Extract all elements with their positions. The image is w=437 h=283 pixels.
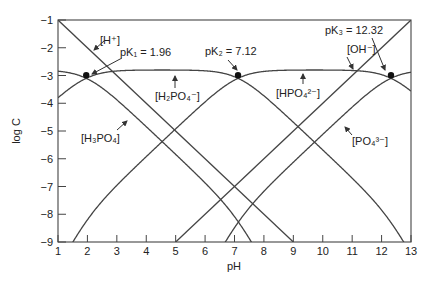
label-hpo4: [HPO₄²⁻] (276, 87, 320, 99)
label-h3po4: [H₃PO₄] (81, 132, 120, 144)
label-po4: [PO₄³⁻] (352, 135, 388, 147)
y-axis-label: log C (10, 118, 22, 144)
arrow-po4 (345, 127, 352, 135)
x-tick-label: 8 (261, 245, 267, 257)
curve-po4 (217, 72, 411, 255)
x-axis-label: pH (227, 260, 241, 272)
label-h2po4: [H₂PO₄⁻] (155, 90, 200, 102)
x-tick-label: 2 (84, 245, 90, 257)
y-tick-label: −4 (40, 97, 53, 109)
y-tick-label: −1 (40, 14, 53, 26)
label-pk1: pK₁ = 1.96 (120, 46, 171, 58)
curve-hpo4 (65, 70, 411, 255)
label-pk2: pK₂ = 7.12 (205, 45, 257, 57)
y-tick-label: −7 (40, 181, 53, 193)
y-tick-label: −2 (40, 42, 53, 54)
label-pk3: pK₃ = 12.32 (325, 24, 383, 36)
x-tick-label: 13 (405, 245, 417, 257)
x-tick-label: 4 (143, 245, 149, 257)
x-tick-label: 3 (114, 245, 120, 257)
arrow-pk2 (228, 60, 237, 70)
x-tick-label: 5 (173, 245, 179, 257)
arrow-h3po4 (117, 121, 127, 130)
y-tick-label: −5 (40, 125, 53, 137)
pk2-dot (235, 72, 241, 78)
x-tick-label: 9 (290, 245, 296, 257)
x-tick-label: 10 (317, 245, 329, 257)
pk3-dot (388, 72, 394, 78)
pk1-dot (83, 72, 89, 78)
curve-h-plus (58, 20, 293, 242)
y-tick-label: −8 (40, 208, 53, 220)
x-tick-label: 6 (202, 245, 208, 257)
arrow-oh (347, 57, 353, 69)
x-tick-label: 1 (55, 245, 61, 257)
pk-markers (83, 72, 394, 78)
y-tick-label: −6 (40, 153, 53, 165)
x-tick-label: 7 (231, 245, 237, 257)
x-tick-label: 12 (375, 245, 387, 257)
x-tick-label: 11 (346, 245, 357, 257)
label-h-plus: [H⁺] (100, 34, 120, 46)
label-oh-minus: [OH⁻] (347, 43, 376, 55)
y-tick-label: −9 (40, 236, 53, 248)
log-c-ph-chart: 12345678910111213−1−2−3−4−5−6−7−8−9 pH l… (0, 0, 437, 283)
y-tick-label: −3 (40, 70, 53, 82)
